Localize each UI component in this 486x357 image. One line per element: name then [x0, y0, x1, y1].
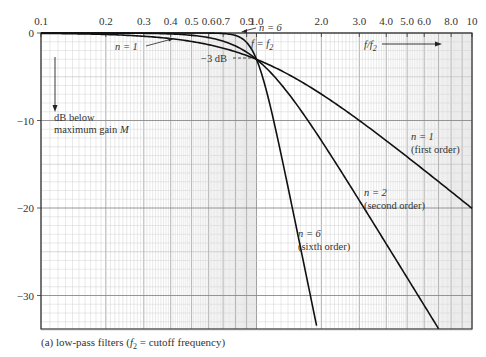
n6-label: n = 6	[259, 22, 283, 33]
f-eq-f2-label: f = f2	[251, 38, 273, 52]
x-tick-label: 8.0	[444, 15, 458, 27]
y-axis-ticks: 0−10−20−30	[17, 27, 41, 302]
y-tick-label: 0	[29, 27, 35, 39]
svg-text:dB below: dB below	[54, 112, 95, 123]
x-tick-label: 0.1	[34, 15, 48, 27]
x-tick-label: 0.7	[216, 15, 230, 27]
x-tick-label: 10	[467, 15, 479, 27]
svg-text:n = 6: n = 6	[298, 228, 322, 239]
x-tick-label: 6.0	[417, 15, 431, 27]
x-tick-label: 0.4	[164, 15, 178, 27]
x-tick-label: 0.5	[185, 15, 199, 27]
plot-grid	[41, 33, 472, 331]
x-tick-label: 5.0	[400, 15, 414, 27]
svg-text:n = 1: n = 1	[411, 131, 434, 142]
bode-magnitude-chart: 0.10.20.30.40.50.60.70.91.02.03.04.05.06…	[0, 0, 486, 357]
svg-text:(second order): (second order)	[364, 200, 425, 212]
y-tick-label: −10	[17, 115, 35, 127]
x-tick-label: 2.0	[314, 15, 328, 27]
x-tick-label: 3.0	[352, 15, 366, 27]
x-tick-label: 4.0	[379, 15, 393, 27]
x-tick-label: 0.2	[99, 15, 113, 27]
svg-text:(first order): (first order)	[411, 144, 460, 156]
y-tick-label: −20	[17, 202, 35, 214]
x-tick-label: 0.3	[137, 15, 151, 27]
label-n1-first-order: n = 1 (first order)	[411, 131, 460, 156]
ff2-label: f/f2	[364, 39, 377, 53]
label-n6-sixth-order: n = 6 (sixth order)	[298, 228, 351, 253]
n1-label: n = 1	[115, 41, 138, 52]
y-tick-label: −30	[17, 290, 35, 302]
svg-text:n = 2: n = 2	[364, 187, 388, 198]
annotation-n1: n = 1	[115, 38, 174, 52]
annotation-yaxis-direction: dB below maximum gain M	[53, 57, 130, 135]
svg-text:(sixth order): (sixth order)	[298, 241, 351, 253]
minus3db-label: −3 dB	[201, 53, 227, 64]
svg-text:maximum gain M: maximum gain M	[54, 124, 130, 135]
figure-caption: (a) low-pass filters (f2 = cutoff freque…	[41, 336, 225, 351]
x-tick-label: 0.6	[202, 15, 216, 27]
